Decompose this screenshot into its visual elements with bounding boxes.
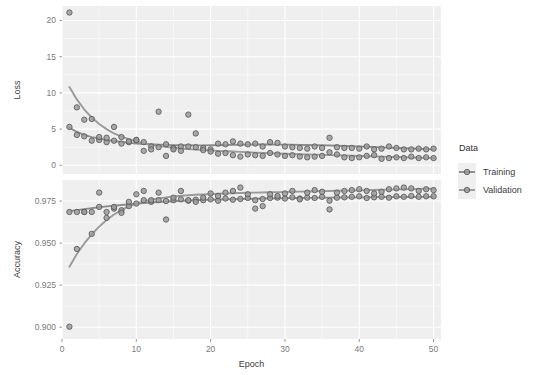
data-point: [260, 153, 265, 158]
data-point: [312, 144, 317, 149]
data-point: [364, 188, 369, 193]
data-point: [215, 151, 220, 156]
data-point: [186, 112, 191, 117]
data-point: [312, 195, 317, 200]
data-point: [111, 124, 116, 129]
data-point: [342, 188, 347, 193]
data-point: [394, 194, 399, 199]
data-point: [96, 190, 101, 195]
data-point: [349, 145, 354, 150]
data-point: [163, 142, 168, 147]
data-point: [364, 144, 369, 149]
data-point: [238, 196, 243, 201]
data-point: [141, 139, 146, 144]
data-point: [245, 152, 250, 157]
data-point: [253, 197, 258, 202]
data-point: [223, 196, 228, 201]
data-point: [178, 148, 183, 153]
data-point: [416, 194, 421, 199]
data-point: [327, 150, 332, 155]
legend-item-validation[interactable]: Validation: [458, 181, 522, 199]
data-point: [275, 193, 280, 198]
data-point: [342, 195, 347, 200]
data-point: [409, 193, 414, 198]
data-point: [334, 190, 339, 195]
data-point: [82, 117, 87, 122]
data-point: [401, 194, 406, 199]
data-point: [386, 144, 391, 149]
axis-title-accuracy: Accuracy: [12, 240, 22, 278]
data-point: [119, 134, 124, 139]
data-point: [423, 155, 428, 160]
data-point: [409, 186, 414, 191]
data-point: [193, 145, 198, 150]
data-point: [386, 195, 391, 200]
data-point: [208, 197, 213, 202]
x-tick-label: 50: [429, 344, 439, 354]
data-point: [230, 152, 235, 157]
data-point: [416, 146, 421, 151]
panel-loss: 05101520Loss: [12, 6, 441, 174]
data-point: [193, 199, 198, 204]
data-point: [371, 147, 376, 152]
data-point: [89, 209, 94, 214]
data-point: [163, 217, 168, 222]
data-point: [379, 156, 384, 161]
data-point: [134, 137, 139, 142]
data-point: [74, 132, 79, 137]
data-point: [156, 190, 161, 195]
data-point: [364, 153, 369, 158]
data-point: [223, 190, 228, 195]
data-point: [148, 197, 153, 202]
data-point: [111, 138, 116, 143]
data-point: [386, 155, 391, 160]
legend-item-training[interactable]: Training: [458, 163, 515, 181]
legend-item-label: Validation: [483, 185, 522, 195]
data-point: [126, 199, 131, 204]
y-tick-label: 0.950: [35, 238, 57, 248]
data-point: [349, 155, 354, 160]
data-point: [267, 192, 272, 197]
data-point: [208, 149, 213, 154]
data-point: [163, 153, 168, 158]
data-point: [134, 201, 139, 206]
chart-container: 05101520Loss0.9000.9250.9500.975Accuracy…: [0, 0, 536, 375]
data-point: [379, 146, 384, 151]
x-tick-label: 20: [206, 344, 216, 354]
data-point: [327, 135, 332, 140]
data-point: [193, 131, 198, 136]
data-point: [290, 195, 295, 200]
data-point: [275, 140, 280, 145]
data-point: [260, 196, 265, 201]
data-point: [119, 210, 124, 215]
data-point: [163, 198, 168, 203]
data-point: [171, 147, 176, 152]
y-tick-label: 5: [51, 124, 56, 134]
data-point: [156, 145, 161, 150]
data-point: [275, 152, 280, 157]
data-point: [401, 147, 406, 152]
data-point: [282, 153, 287, 158]
data-point: [74, 105, 79, 110]
data-point: [305, 190, 310, 195]
data-point: [215, 193, 220, 198]
data-point: [305, 155, 310, 160]
data-point: [379, 189, 384, 194]
panel-background: [62, 180, 441, 339]
data-point: [290, 188, 295, 193]
data-point: [319, 194, 324, 199]
data-point: [111, 204, 116, 209]
data-point: [371, 152, 376, 157]
data-point: [186, 144, 191, 149]
data-point: [267, 150, 272, 155]
data-point: [186, 197, 191, 202]
data-point: [305, 146, 310, 151]
data-point: [67, 124, 72, 129]
data-point: [386, 187, 391, 192]
data-point: [357, 194, 362, 199]
data-point: [67, 209, 72, 214]
data-point: [409, 147, 414, 152]
data-point: [178, 197, 183, 202]
data-point: [401, 185, 406, 190]
data-point: [96, 204, 101, 209]
